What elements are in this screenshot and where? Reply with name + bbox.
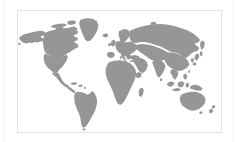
left-vertical-rule — [3, 0, 4, 142]
right-vertical-rule — [233, 0, 234, 142]
world-map-svg — [18, 11, 221, 132]
region-sri-lanka — [160, 78, 162, 81]
region-tasmania — [199, 111, 202, 114]
world-map-figure — [18, 11, 221, 132]
world-map-panel: World map World Map Grayscale equirectan… — [17, 10, 222, 133]
screenshot-root: World map World Map Grayscale equirectan… — [0, 0, 236, 142]
